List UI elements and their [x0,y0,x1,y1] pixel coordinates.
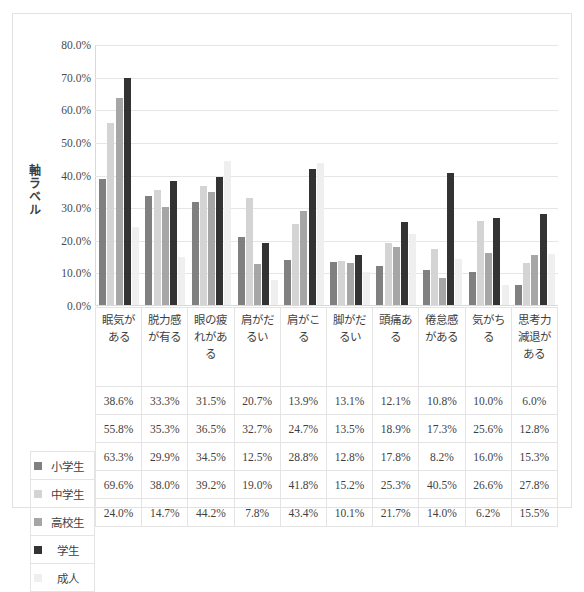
value-cell: 17.3% [419,415,465,443]
category-header-cell: 肩がこる [280,308,326,387]
bar [469,272,476,305]
value-cell: 31.5% [188,387,234,415]
value-cell: 25.6% [465,415,511,443]
value-cell: 17.8% [373,443,419,471]
bar-group [188,45,234,305]
value-cell: 6.0% [511,387,557,415]
value-cell: 28.8% [280,443,326,471]
legend-entry: 成人 [34,570,90,586]
value-cell: 34.5% [188,443,234,471]
bar [262,243,269,305]
bar [162,207,169,305]
bar [423,270,430,305]
bar [192,202,199,305]
value-cell: 39.2% [188,471,234,499]
bar [208,192,215,305]
bar [284,260,291,305]
value-cell: 26.6% [465,471,511,499]
value-cell: 13.9% [280,387,326,415]
value-cell: 38.0% [142,471,188,499]
value-cell: 13.5% [326,415,372,443]
y-tick-label: 20.0% [5,235,91,247]
bar [145,196,152,305]
bar-group [281,45,327,305]
bar [317,163,324,305]
value-cell: 40.5% [419,471,465,499]
category-header-cell: 頭痛ある [373,308,419,387]
bar [330,262,337,305]
value-cell: 12.5% [234,443,280,471]
bar [455,259,462,305]
bar [531,255,538,305]
y-tick-label: 50.0% [5,137,91,149]
bar [540,214,547,305]
legend-entry: 学生 [34,542,90,558]
table-row: 38.6%33.3%31.5%20.7%13.9%13.1%12.1%10.8%… [96,387,558,415]
legend-row: 学生 [31,536,95,564]
value-cell: 12.8% [511,415,557,443]
bar [431,249,438,305]
legend-label: 高校生 [45,514,90,530]
table-row: 眠気がある脱力感が有る眼の疲れがある肩がだるい肩がこる脚がだるい頭痛ある倦怠感が… [96,308,558,387]
value-cell: 38.6% [96,387,142,415]
value-cell: 6.2% [465,499,511,527]
bar [254,264,261,305]
bar [523,263,530,305]
legend-cell: 学生 [31,536,95,564]
legend-swatch-icon [34,518,42,526]
legend-label: 中学生 [45,486,90,502]
y-axis-tick-labels: 80.0%70.0%60.0%50.0%40.0%30.0%20.0%10.0%… [0,45,91,306]
y-tick-label: 0.0% [5,300,91,312]
bar [376,266,383,305]
legend-entry: 小学生 [34,458,90,474]
value-cell: 20.7% [234,387,280,415]
bar [485,253,492,305]
value-cell: 43.4% [280,499,326,527]
bar [170,181,177,305]
bar-group [235,45,281,305]
bar [300,211,307,305]
value-cell: 27.8% [511,471,557,499]
value-cell: 16.0% [465,443,511,471]
value-cell: 32.7% [234,415,280,443]
legend-spacer [31,379,95,452]
y-tick-label: 40.0% [5,170,91,182]
category-header-cell: 眠気がある [96,308,142,387]
bar [246,198,253,305]
legend-row: 小学生 [31,452,95,480]
category-header-cell: 脱力感が有る [142,308,188,387]
value-cell: 21.7% [373,499,419,527]
legend-entry: 中学生 [34,486,90,502]
value-cell: 24.7% [280,415,326,443]
legend-row: 中学生 [31,480,95,508]
value-cell: 15.5% [511,499,557,527]
category-header-cell: 倦怠感がある [419,308,465,387]
bar [116,98,123,305]
bar-group [142,45,188,305]
bar-group [96,45,142,305]
bar [347,263,354,305]
value-cell: 15.3% [511,443,557,471]
data-table: 眠気がある脱力感が有る眼の疲れがある肩がだるい肩がこる脚がだるい頭痛ある倦怠感が… [95,307,558,527]
bar [238,237,245,305]
bar [401,222,408,305]
legend-table: 小学生中学生高校生学生成人 [30,379,95,592]
bar [502,285,509,305]
legend-swatch-icon [34,546,42,554]
y-tick-label: 80.0% [5,39,91,51]
table-row: 24.0%14.7%44.2%7.8%43.4%10.1%21.7%14.0%6… [96,499,558,527]
legend-row: 成人 [31,564,95,592]
bar-group [419,45,465,305]
category-header-cell: 気がちる [465,308,511,387]
value-cell: 29.9% [142,443,188,471]
bar-group [373,45,419,305]
value-cell: 12.8% [326,443,372,471]
bar [338,261,345,305]
bar [477,221,484,305]
legend-swatch-icon [34,462,42,470]
bar [178,257,185,305]
bar [309,169,316,305]
bar [271,280,278,305]
value-cell: 69.6% [96,471,142,499]
